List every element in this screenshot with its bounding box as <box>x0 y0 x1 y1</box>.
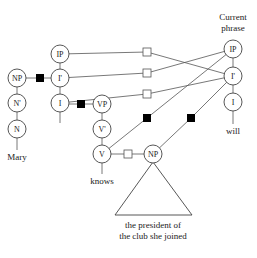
node-v: V <box>93 145 111 163</box>
current-phrase-header-line2: phrase <box>221 23 245 33</box>
node-n: N <box>8 120 26 138</box>
open-square-markers <box>124 48 151 158</box>
node-np-object: NP <box>144 145 162 163</box>
current-phrase-link-edges <box>60 49 233 154</box>
open-square-icon <box>124 150 132 158</box>
svg-text:IP: IP <box>229 45 237 54</box>
node-current-i-bar: I' <box>224 67 242 85</box>
filled-square-icon <box>187 114 195 122</box>
svg-text:IP: IP <box>56 50 64 59</box>
svg-text:I: I <box>59 99 62 108</box>
syntax-parse-diagram: Current phrase <box>0 0 257 258</box>
svg-text:N: N <box>14 125 20 134</box>
node-np-subject: NP <box>8 69 26 87</box>
local-attachment-edges <box>17 78 153 154</box>
svg-text:I': I' <box>231 72 236 81</box>
np-object-text-line2: the club she joined <box>119 231 187 241</box>
np-object-text-line1: the president of <box>125 220 181 230</box>
filled-square-icon <box>77 100 85 108</box>
svg-text:I: I <box>232 98 235 107</box>
svg-text:NP: NP <box>12 74 23 83</box>
svg-text:V: V <box>99 150 105 159</box>
open-square-icon <box>143 90 151 98</box>
filled-square-icon <box>143 114 151 122</box>
word-mary: Mary <box>7 152 27 162</box>
node-current-ip: IP <box>224 40 242 58</box>
np-object-triangle <box>115 162 192 215</box>
filled-square-icon <box>36 74 44 82</box>
current-phrase-header-line1: Current <box>219 12 247 22</box>
word-knows: knows <box>90 176 114 186</box>
node-n-bar: N' <box>8 94 26 112</box>
svg-text:NP: NP <box>148 150 159 159</box>
node-ip: IP <box>51 45 69 63</box>
diagram-svg: Current phrase <box>0 0 257 258</box>
svg-text:VP: VP <box>97 100 108 109</box>
node-i-bar: I' <box>51 69 69 87</box>
svg-text:N': N' <box>13 99 21 108</box>
word-will: will <box>226 126 241 136</box>
open-square-icon <box>143 69 151 77</box>
node-v-bar: V' <box>93 120 111 138</box>
node-current-i: I <box>224 93 242 111</box>
node-i: I <box>51 94 69 112</box>
svg-text:V': V' <box>98 125 106 134</box>
open-square-icon <box>143 48 151 56</box>
svg-text:I': I' <box>58 74 63 83</box>
node-vp: VP <box>93 95 111 113</box>
